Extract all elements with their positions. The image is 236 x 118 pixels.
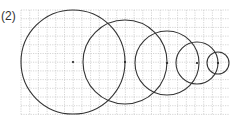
center-point [166,62,168,64]
center-point [124,61,126,63]
center-point [196,62,198,64]
center-point [72,61,74,63]
center-point [217,62,219,64]
nested-circles-diagram [0,0,236,118]
